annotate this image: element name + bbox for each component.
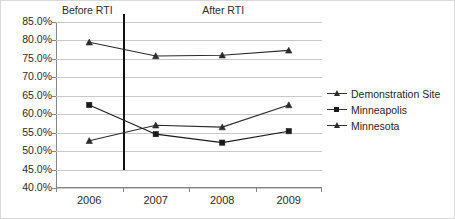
legend-item[interactable]: Demonstration Site: [327, 86, 451, 101]
series-line: [89, 42, 289, 56]
annotation-before-rti: Before RTI: [62, 4, 113, 16]
legend-marker-icon: [327, 88, 347, 99]
y-axis-tick-label: 50.0%: [0, 145, 52, 156]
line-chart-figure: 85.0%80.0%75.0%70.0%65.0%60.0%55.0%50.0%…: [0, 0, 455, 219]
y-axis-tick-label: 75.0%: [0, 53, 52, 64]
data-point: [286, 102, 292, 108]
data-point: [220, 140, 225, 145]
y-axis-tick-label: 70.0%: [0, 71, 52, 82]
series-minnesota: [86, 39, 292, 59]
plot-area: 2006200720082009 Before RTI After RTI: [56, 22, 322, 188]
y-axis-tick-label: 65.0%: [0, 90, 52, 101]
y-axis-tick-label: 45.0%: [0, 164, 52, 175]
y-axis-tick-label: 60.0%: [0, 108, 52, 119]
series-minneapolis: [87, 102, 292, 145]
legend-item-label: Minneapolis: [351, 104, 407, 116]
x-axis-tick-label: 2008: [192, 194, 252, 206]
series-layer: [56, 22, 322, 188]
legend-item-label: Minnesota: [351, 120, 399, 132]
data-point: [86, 39, 92, 45]
data-point: [286, 129, 291, 134]
legend-item[interactable]: Minneapolis: [327, 102, 451, 117]
x-axis-tick-mark: [56, 188, 57, 192]
x-axis-tick-mark: [256, 188, 257, 192]
y-axis-tick-label: 80.0%: [0, 34, 52, 45]
annotation-after-rti: After RTI: [202, 4, 244, 16]
legend-item[interactable]: Minnesota: [327, 118, 451, 133]
x-axis-tick-mark: [321, 188, 322, 192]
x-axis-tick-label: 2006: [59, 194, 119, 206]
x-axis-tick-mark: [189, 188, 190, 192]
series-demonstration-site: [86, 102, 292, 144]
x-axis-tick-label: 2007: [126, 194, 186, 206]
legend-marker-icon: [327, 104, 347, 115]
series-line: [89, 105, 289, 141]
data-point: [87, 102, 92, 107]
chart-legend: Demonstration SiteMinneapolisMinnesota: [327, 86, 451, 134]
series-line: [89, 105, 289, 143]
legend-item-label: Demonstration Site: [351, 88, 440, 100]
y-axis-tick-label: 85.0%: [0, 16, 52, 27]
y-axis-tick-label: 55.0%: [0, 127, 52, 138]
x-axis-tick-label: 2009: [259, 194, 319, 206]
data-point: [153, 132, 158, 137]
y-axis-tick-label: 40.0%: [0, 182, 52, 193]
x-axis-tick-mark: [123, 188, 124, 192]
legend-marker-icon: [327, 120, 347, 131]
